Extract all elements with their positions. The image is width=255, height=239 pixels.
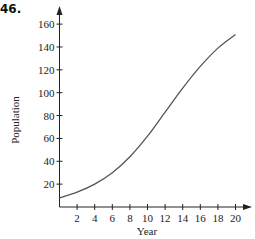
y-axis-arrow-icon [57, 6, 63, 15]
x-tick-label: 8 [127, 212, 133, 224]
x-tick-label: 4 [92, 212, 98, 224]
x-axis-label: Year [137, 225, 158, 237]
y-tick-label: 140 [38, 41, 55, 53]
x-tick-label: 20 [230, 212, 242, 224]
y-tick-label: 40 [44, 155, 56, 167]
y-tick-label: 20 [44, 178, 56, 190]
x-tick-label: 2 [74, 212, 80, 224]
y-tick-label: 80 [44, 110, 56, 122]
x-tick-label: 12 [160, 212, 171, 224]
y-tick-label: 60 [44, 132, 56, 144]
x-tick-label: 16 [195, 212, 207, 224]
y-tick-label: 120 [38, 64, 55, 76]
x-tick-label: 18 [212, 212, 224, 224]
population-curve [60, 34, 236, 197]
x-tick-label: 10 [142, 212, 154, 224]
ticks: 246810121416182020406080100120140160 [38, 18, 242, 224]
x-axis-arrow-icon [243, 204, 252, 210]
y-axis-label: Population [9, 96, 21, 144]
population-chart: 246810121416182020406080100120140160 Yea… [0, 0, 255, 239]
x-tick-label: 6 [110, 212, 116, 224]
y-tick-label: 160 [38, 18, 55, 30]
y-tick-label: 100 [38, 87, 55, 99]
x-tick-label: 14 [177, 212, 189, 224]
axes [57, 6, 253, 210]
